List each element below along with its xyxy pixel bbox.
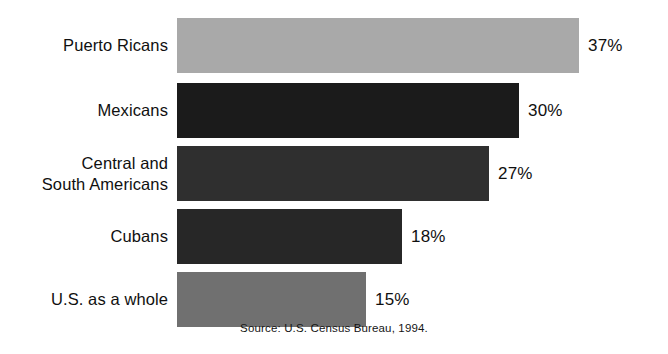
bar-puerto-ricans xyxy=(177,18,579,73)
bar-chart-figure: Puerto Ricans 37% Mexicans 30% Central a… xyxy=(0,0,668,354)
chart-plot-area: Puerto Ricans 37% Mexicans 30% Central a… xyxy=(0,0,668,316)
bar-central-south-americans xyxy=(177,146,489,201)
bar-cubans xyxy=(177,209,402,264)
bar-row: Cubans 18% xyxy=(0,209,668,264)
bar-value-label: 27% xyxy=(489,165,533,182)
bar-track: 18% xyxy=(177,209,668,264)
bar-category-label: U.S. as a whole xyxy=(0,289,177,309)
bar-row: Central and South Americans 27% xyxy=(0,146,668,201)
bar-row: Puerto Ricans 37% xyxy=(0,18,668,73)
bar-category-label: Puerto Ricans xyxy=(0,35,177,55)
bar-category-label: Central and South Americans xyxy=(0,153,177,193)
bar-row: U.S. as a whole 15% xyxy=(0,272,668,327)
bar-track: 15% xyxy=(177,272,668,327)
bar-value-label: 18% xyxy=(402,228,446,245)
bar-value-label: 15% xyxy=(366,291,410,308)
bar-track: 27% xyxy=(177,146,668,201)
bar-row: Mexicans 30% xyxy=(0,83,668,138)
bar-track: 30% xyxy=(177,83,668,138)
bar-track: 37% xyxy=(177,18,668,73)
source-note: Source: U.S. Census Bureau, 1994. xyxy=(0,322,668,334)
bar-mexicans xyxy=(177,83,519,138)
bar-us-as-a-whole xyxy=(177,272,366,327)
bar-category-label: Mexicans xyxy=(0,100,177,120)
bar-value-label: 30% xyxy=(519,102,563,119)
bar-value-label: 37% xyxy=(579,37,623,54)
bar-category-label: Cubans xyxy=(0,226,177,246)
